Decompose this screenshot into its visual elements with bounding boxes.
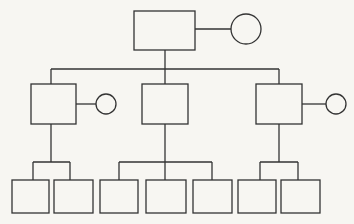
gen1-male-square bbox=[134, 11, 195, 50]
gen3-child-square-3 bbox=[100, 180, 138, 213]
gen2-right-square bbox=[256, 84, 302, 124]
gen3-child-square-6 bbox=[238, 180, 276, 213]
gen3-child-square-2 bbox=[54, 180, 93, 213]
pedigree-canvas bbox=[0, 0, 354, 224]
gen2-left-spouse-circle bbox=[96, 94, 116, 114]
gen3-child-square-5 bbox=[193, 180, 232, 213]
gen2-middle-square bbox=[142, 84, 188, 124]
gen2-right-spouse-circle bbox=[326, 94, 346, 114]
gen2-left-square bbox=[31, 84, 76, 124]
gen3-child-square-4 bbox=[146, 180, 186, 213]
pedigree-diagram bbox=[0, 0, 354, 224]
gen1-female-circle bbox=[231, 14, 261, 44]
gen3-child-square-1 bbox=[12, 180, 49, 213]
gen3-child-square-7 bbox=[281, 180, 320, 213]
